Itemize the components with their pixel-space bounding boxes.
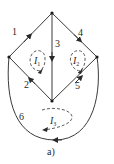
figure-caption: a) [47, 146, 55, 158]
loop-i1-label: I1 [33, 55, 40, 67]
edge-2-label: 2 [24, 79, 29, 90]
node-left [7, 55, 10, 58]
edge-4-label: 4 [78, 27, 83, 38]
circuit-graph: 1 2 3 4 5 6 I1 I2 I3 a) [0, 0, 114, 164]
edge-3-label: 3 [55, 38, 60, 49]
edge-4 [52, 13, 97, 57]
node-right [95, 55, 98, 58]
loop-i3 [42, 108, 72, 132]
loop-i3-label: I3 [49, 115, 56, 127]
node-bottom [50, 99, 53, 102]
edge-6-label: 6 [19, 111, 24, 122]
edge-1-label: 1 [12, 26, 17, 37]
node-top [50, 11, 53, 14]
edge-5-label: 5 [75, 80, 80, 91]
loop-i2-label: I2 [72, 55, 79, 67]
